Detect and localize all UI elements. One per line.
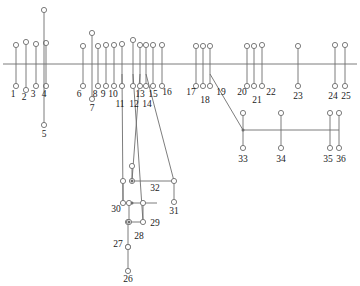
node-label-21: 21 xyxy=(252,96,262,106)
node-label-20: 20 xyxy=(237,88,247,98)
feeder-top-node-13 xyxy=(137,42,142,47)
feeder-bottom-node-3 xyxy=(33,83,38,88)
feeder-bottom-node-8 xyxy=(95,83,100,88)
node-label-1: 1 xyxy=(11,90,16,100)
feeder-top-node-35 xyxy=(327,110,332,115)
junction-28-left xyxy=(128,221,131,224)
junction-group xyxy=(128,129,245,224)
feeder-top-node-14 xyxy=(143,42,148,47)
bus-group xyxy=(3,64,357,222)
feeder-bottom-node-36 xyxy=(336,145,341,150)
feeder-17 xyxy=(193,43,198,88)
node-label-32: 32 xyxy=(150,184,160,194)
feeder-top-node-36 xyxy=(336,110,341,115)
feeder-31 xyxy=(171,178,176,204)
feeder-top-node-20 xyxy=(244,43,249,48)
junction-32-left xyxy=(131,180,134,183)
node-label-35: 35 xyxy=(323,155,333,165)
node-label-11: 11 xyxy=(115,100,124,110)
feeder-23 xyxy=(295,43,300,88)
feeder-top-node-33 xyxy=(240,110,245,115)
feeder-24 xyxy=(332,42,337,88)
feeder-bottom-node-14 xyxy=(143,83,148,88)
feeder-16 xyxy=(159,42,164,88)
feeder-top-node-17 xyxy=(193,43,198,48)
junction-33-bus xyxy=(242,129,245,132)
feeder-bottom-node-18 xyxy=(200,83,205,88)
feeder-top-node-23 xyxy=(295,43,300,48)
feeder-6 xyxy=(80,43,85,88)
feeder-top-node-3 xyxy=(33,41,38,46)
feeder-19 xyxy=(207,43,212,88)
junction-29-left xyxy=(131,202,134,205)
feeder-12 xyxy=(130,37,135,88)
feeder-top-node-15 xyxy=(150,42,155,47)
node-label-8: 8 xyxy=(93,90,98,100)
feeder-top-node-21 xyxy=(251,43,256,48)
feeder-25 xyxy=(342,42,347,88)
node-label-12: 12 xyxy=(129,100,139,110)
node-label-26: 26 xyxy=(123,275,133,285)
node-label-18: 18 xyxy=(200,96,210,106)
feeder-top-node-1 xyxy=(13,42,18,47)
feeder-bottom-node-34 xyxy=(278,145,283,150)
node-label-17: 17 xyxy=(186,88,196,98)
node-label-28: 28 xyxy=(134,232,144,242)
feeder-top-node-25 xyxy=(342,42,347,47)
feeder-top-node-11 xyxy=(119,41,124,46)
feeder-top-node-10 xyxy=(111,42,116,47)
node-label-34: 34 xyxy=(276,155,286,165)
feeder-20 xyxy=(244,43,249,88)
feeder-2 xyxy=(23,39,28,92)
feeder-8 xyxy=(95,43,100,88)
node-label-4: 4 xyxy=(42,90,47,100)
feeder-top-node-31 xyxy=(171,178,176,183)
network-svg xyxy=(0,0,360,286)
feeder-10 xyxy=(111,42,116,88)
feeder-bottom-node-35 xyxy=(327,145,332,150)
node-label-5: 5 xyxy=(42,130,47,140)
node-label-24: 24 xyxy=(328,92,338,102)
node-label-36: 36 xyxy=(336,155,346,165)
network-diagram: 1234567891011121314151617181920212223242… xyxy=(0,0,360,286)
feeder-35 xyxy=(327,110,332,150)
node-label-16: 16 xyxy=(162,88,172,98)
feeder-bottom-node-9 xyxy=(103,83,108,88)
feeder-36 xyxy=(336,110,341,150)
feeder-bottom-node-21 xyxy=(251,83,256,88)
feeder-bottom-node-31 xyxy=(171,199,176,204)
feeder-bottom-node-19 xyxy=(207,83,212,88)
feeder-bottom-node-23 xyxy=(295,83,300,88)
feeder-13 xyxy=(137,42,142,88)
feeder-18 xyxy=(200,43,205,88)
node-label-9: 9 xyxy=(101,90,106,100)
feeder-top-node-29 xyxy=(140,200,145,205)
feeder-bottom-node-26 xyxy=(125,268,130,273)
feeder-top-node-19 xyxy=(207,43,212,48)
feeder-bottom-node-5 xyxy=(41,122,46,127)
node-label-23: 23 xyxy=(293,92,303,102)
feeder-bottom-node-25 xyxy=(342,83,347,88)
node-label-22: 22 xyxy=(266,88,276,98)
node-label-25: 25 xyxy=(341,92,351,102)
feeder-bottom-node-13 xyxy=(137,83,142,88)
feeder-top-node-2 xyxy=(23,39,28,44)
tie-19-to-33 xyxy=(210,74,243,130)
feeder-top-node-7 xyxy=(89,30,94,35)
node-label-2: 2 xyxy=(22,93,27,103)
feeder-group xyxy=(13,7,347,273)
feeder-21 xyxy=(251,43,256,88)
feeder-top-node-12 xyxy=(130,37,135,42)
feeder-9 xyxy=(103,42,108,88)
feeder-bottom-node-29 xyxy=(140,219,145,224)
feeder-bottom-node-15 xyxy=(150,83,155,88)
node-label-29: 29 xyxy=(150,219,160,229)
feeder-bottom-node-1 xyxy=(13,83,18,88)
feeder-top-node-18 xyxy=(200,43,205,48)
node-label-30: 30 xyxy=(111,205,121,215)
feeder-22 xyxy=(259,42,264,88)
node-label-19: 19 xyxy=(216,88,226,98)
feeder-top-node-16 xyxy=(159,42,164,47)
feeder-top-node-24 xyxy=(332,42,337,47)
feeder-bottom-node-33 xyxy=(240,145,245,150)
